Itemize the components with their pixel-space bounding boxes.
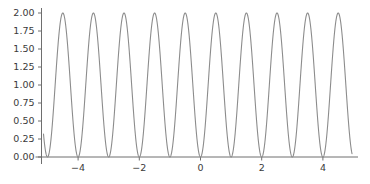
y-tick-label: 0.00 [13,151,34,162]
x-tick-label: 2 [259,162,265,173]
y-tick-label: 1.25 [13,61,34,72]
y-tick-label: 0.75 [13,97,34,108]
y-tick-label: 0.25 [13,133,34,144]
chart-figure: 0.000.250.500.751.001.251.501.752.00 −4−… [0,0,370,184]
x-tick-label: −2 [132,162,146,173]
y-tick-label: 1.75 [13,25,34,36]
x-tick-label: 4 [320,162,326,173]
x-tick-label: 0 [197,162,203,173]
y-tick-label: 1.00 [13,79,34,90]
line-chart: 0.000.250.500.751.001.251.501.752.00 −4−… [0,0,370,184]
y-tick-label: 1.50 [13,43,34,54]
figure-background [0,0,370,184]
y-tick-label: 0.50 [13,115,34,126]
x-tick-label: −4 [71,162,85,173]
y-tick-label: 2.00 [13,7,34,18]
